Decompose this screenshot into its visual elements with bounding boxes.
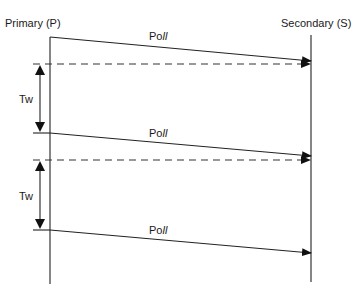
poll-label: Poll [149, 224, 168, 236]
secondary-label: Secondary (S) [281, 17, 351, 29]
primary-label: Primary (P) [5, 17, 61, 29]
arrow-down-icon [35, 122, 45, 132]
tw-interval-2: Tw [19, 161, 45, 229]
poll-label: Poll [149, 127, 168, 139]
poll-message-2: Poll [50, 127, 311, 156]
arrow-icon [50, 230, 311, 253]
arrowhead-icon [301, 156, 311, 164]
arrow-up-icon [35, 161, 45, 171]
tw-interval-1: Tw [19, 65, 45, 132]
arrow-icon [50, 37, 311, 61]
polling-timing-diagram: Primary (P) Secondary (S) Poll Poll Poll… [0, 0, 363, 301]
arrow-down-icon [35, 219, 45, 229]
arrow-up-icon [35, 65, 45, 75]
poll-label: Poll [149, 30, 168, 42]
tw-label: Tw [19, 190, 33, 202]
poll-message-1: Poll [50, 30, 311, 61]
poll-message-3: Poll [50, 224, 311, 253]
tw-label: Tw [19, 93, 33, 105]
arrow-icon [50, 133, 311, 156]
